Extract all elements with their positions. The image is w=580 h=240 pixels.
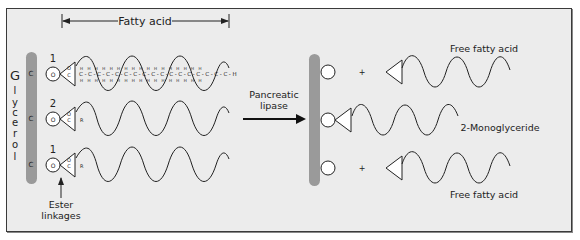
svg-text:l: l — [14, 85, 17, 96]
svg-text:Free fatty acid: Free fatty acid — [450, 43, 518, 54]
product-2-monoglyceride: 2-Monoglyceride — [321, 104, 540, 135]
glycerol-backbone-product — [309, 54, 320, 186]
svg-text:lipase: lipase — [260, 100, 288, 111]
lipase-diagram: Fatty acid G l y c e r o l C 1 O O C C-C… — [0, 0, 580, 240]
product-free-fatty-acid-1: + Free fatty acid — [321, 43, 518, 87]
svg-text:l: l — [14, 151, 17, 162]
products: + Free fatty acid 2-Monoglyceride + Free… — [321, 43, 540, 200]
ester-row-1: C 1 O O C C-C-C-C-C-C-C-C-C-C-C-C-C-C-C-… — [29, 53, 239, 91]
svg-text:HHHHHHHHHHHHHHHHH: HHHHHHHHHHHHHHHHH — [80, 66, 206, 71]
svg-text:C: C — [67, 163, 71, 169]
svg-text:G: G — [10, 68, 20, 83]
svg-text:1: 1 — [50, 53, 56, 64]
svg-text:O: O — [67, 65, 71, 71]
svg-text:1: 1 — [50, 144, 56, 155]
svg-text:linkages: linkages — [41, 210, 80, 221]
svg-text:HHHHHHHHHHHHHHHHH: HHHHHHHHHHHHHHHHH — [80, 78, 206, 83]
svg-text:R: R — [80, 117, 84, 123]
svg-text:e: e — [12, 117, 18, 128]
fatty-acid-bracket: Fatty acid — [62, 14, 229, 28]
pancreatic-lipase-arrow: Pancreatic lipase — [243, 89, 306, 124]
svg-text:O: O — [51, 71, 56, 78]
svg-text:C: C — [67, 72, 71, 78]
svg-text:C: C — [29, 161, 34, 169]
fatty-acid-label: Fatty acid — [118, 15, 172, 28]
svg-text:R: R — [80, 163, 84, 169]
svg-text:C: C — [29, 115, 34, 123]
svg-text:O: O — [51, 116, 56, 123]
ester-row-3: C 1 O O C R — [29, 144, 229, 182]
svg-text:Pancreatic: Pancreatic — [249, 89, 298, 100]
product-free-fatty-acid-2: + Free fatty acid — [321, 152, 518, 200]
svg-text:+: + — [359, 164, 366, 173]
chain-atoms: C-C-C-C-C-C-C-C-C-C-C-C-C-C-C-C-C-H — [79, 71, 238, 77]
svg-text:2-Monoglyceride: 2-Monoglyceride — [460, 122, 539, 133]
svg-text:+: + — [359, 68, 366, 77]
svg-text:r: r — [13, 128, 18, 139]
glycerol-label: G l y c e r o l — [10, 68, 20, 162]
svg-text:o: o — [12, 139, 18, 150]
triglyceride: C 1 O O C C-C-C-C-C-C-C-C-C-C-C-C-C-C-C-… — [29, 53, 239, 182]
ester-linkages-annotation: Ester linkages — [41, 178, 80, 221]
ester-row-2: C 2 O O C R — [29, 98, 229, 136]
svg-text:O: O — [51, 162, 56, 169]
svg-text:2: 2 — [50, 98, 56, 109]
svg-text:Ester: Ester — [49, 199, 74, 210]
svg-text:C: C — [29, 70, 34, 78]
svg-text:Free fatty acid: Free fatty acid — [450, 189, 518, 200]
svg-text:C: C — [67, 117, 71, 123]
